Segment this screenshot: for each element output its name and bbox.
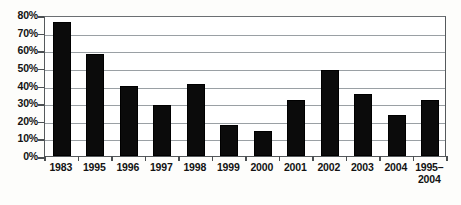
x-axis-tick-label: 2004 [379,161,413,173]
x-axis-tick-label: 1998 [178,161,212,173]
y-axis-tick-mark [38,87,44,89]
y-axis-tick-label: 10% [0,133,38,144]
x-axis-tick-label: 1995 [78,161,112,173]
x-axis-tick-label: 2002 [312,161,346,173]
y-axis-tick-label: 60% [0,45,38,56]
y-axis-tick-label: 40% [0,81,38,92]
bar-chart: 0%10%20%30%40%50%60%70%80% 1983199519961… [0,0,461,205]
x-axis-tick-label: 2000 [245,161,279,173]
y-axis-tick-label: 50% [0,63,38,74]
x-axis-tick-mark [446,156,448,161]
y-axis-tick-mark [38,34,44,36]
y-axis: 0%10%20%30%40%50%60%70%80% [0,16,461,157]
y-axis-tick-label: 70% [0,28,38,39]
x-axis-tick-label: 1996 [111,161,145,173]
x-axis-tick-mark [44,156,46,161]
x-axis-tick-label: 1995– 2004 [413,161,447,185]
y-axis-tick-label: 30% [0,98,38,109]
x-axis-tick-label: 1983 [44,161,78,173]
y-axis-tick-mark [38,16,44,18]
y-axis-tick-mark [38,104,44,106]
y-axis-tick-label: 0% [0,151,38,162]
x-axis-tick-label: 2003 [346,161,380,173]
x-axis-tick-label: 1999 [212,161,246,173]
x-axis-tick-label: 2001 [279,161,313,173]
y-axis-tick-mark [38,122,44,124]
x-axis-tick-label: 1997 [145,161,179,173]
y-axis-tick-mark [38,51,44,53]
x-axis: 1983199519961997199819992000200120022003… [44,161,446,203]
y-axis-tick-label: 80% [0,10,38,21]
y-axis-tick-mark [38,139,44,141]
y-axis-tick-mark [38,69,44,71]
y-axis-tick-label: 20% [0,116,38,127]
